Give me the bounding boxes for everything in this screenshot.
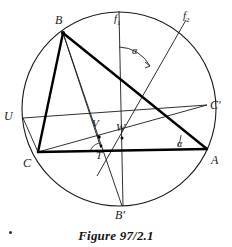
point-label-c: C (23, 157, 31, 169)
axis-label-f1-subscript: 1 (117, 19, 121, 27)
point-label-b: B (55, 14, 62, 26)
point-label-v: V (92, 118, 99, 129)
figure-panel: B A C B' C' U V W T f1 f2 α α Figure 97/… (0, 0, 232, 247)
side-ca (38, 149, 207, 152)
axis-label-f2-subscript: 2 (186, 16, 190, 24)
point-label-u: U (4, 110, 13, 122)
point-label-w: W (116, 122, 125, 133)
point-label-c-prime: C' (210, 99, 221, 111)
circumscribed-circle (22, 12, 216, 206)
vertex-dot-b (61, 31, 65, 35)
angle-label-alpha-vertex-a: α (177, 139, 182, 149)
point-label-b-prime: B' (115, 209, 125, 221)
segment-b-to-t (63, 33, 101, 148)
angle-label-alpha-center: α (132, 46, 137, 56)
axis-label-f2: f2 (183, 10, 190, 24)
point-label-a: A (211, 154, 218, 166)
vertex-dot-w (121, 137, 124, 140)
chord-u-to-cprime (23, 105, 207, 118)
axis-f2-line (97, 20, 186, 176)
point-label-t: T (96, 150, 102, 161)
vertex-dot-t (100, 145, 103, 148)
vertex-dot-v (97, 135, 100, 138)
angle-arrow-alpha-center (145, 62, 150, 68)
figure-caption: Figure 97/2.1 (0, 228, 232, 244)
axis-label-f1: f1 (114, 13, 121, 27)
axis-f1-line (119, 11, 123, 206)
